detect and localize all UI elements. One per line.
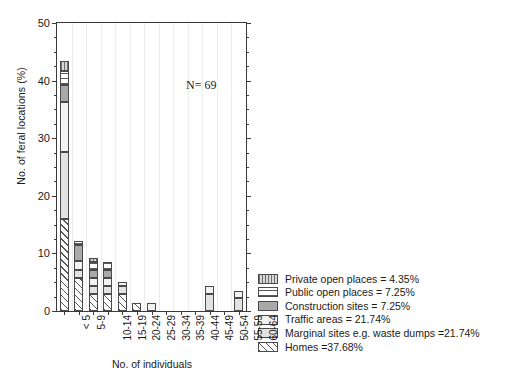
y-tick-minor (54, 167, 57, 168)
x-tick-label: 30-34 (180, 315, 191, 341)
bar-segment (60, 71, 69, 84)
x-tick-label: 45-49 (224, 315, 235, 341)
y-tick-minor-right (246, 297, 249, 298)
sample-size-annotation: N= 69 (186, 78, 216, 93)
x-tick (64, 311, 65, 315)
x-tick-label: < 5 (81, 315, 92, 329)
legend-label: Homes =37.68% (285, 342, 363, 353)
gridline-vertical (130, 23, 131, 311)
y-tick-major-right (246, 81, 251, 82)
legend-swatch-homes (258, 342, 278, 352)
y-tick-minor (54, 239, 57, 240)
bar-segment (89, 286, 98, 294)
y-tick-minor-right (246, 52, 249, 53)
bar--5 (60, 61, 69, 311)
y-tick-label: 20 (26, 190, 50, 202)
bar-segment (205, 294, 214, 311)
x-tick-label: 15-19 (136, 315, 147, 341)
bar-segment (60, 219, 69, 311)
x-tick-label: 40-44 (209, 315, 220, 341)
y-tick-major-right (246, 311, 251, 312)
y-tick-minor-right (246, 124, 249, 125)
bar-segment (89, 258, 98, 262)
x-tick-label: 35-39 (195, 315, 206, 341)
x-tick (79, 311, 80, 315)
y-tick-minor-right (246, 239, 249, 240)
legend-item: Marginal sites e.g. waste dumps =21.74% (258, 326, 516, 340)
bar-segment (74, 241, 83, 245)
y-tick-minor-right (246, 282, 249, 283)
bar-15-19 (103, 262, 112, 311)
gridline-vertical (86, 23, 87, 311)
bar-segment (118, 286, 127, 294)
y-tick-minor-right (246, 95, 249, 96)
x-tick-label: 5-9 (96, 315, 107, 329)
bar-segment (74, 245, 83, 262)
bar-segment (118, 282, 127, 286)
y-tick-major (52, 23, 57, 24)
x-tick-label: 20-24 (151, 315, 162, 341)
y-tick-minor-right (246, 66, 249, 67)
y-tick-minor (54, 282, 57, 283)
bar-segment (89, 294, 98, 311)
bar-segment (74, 261, 83, 269)
bar-segment (234, 291, 243, 298)
x-tick (93, 311, 94, 315)
bar-segment (74, 278, 83, 311)
y-tick-minor (54, 95, 57, 96)
bar-segment (132, 303, 141, 311)
gridline-vertical (115, 23, 116, 311)
legend-item: Homes =37.68% (258, 340, 516, 354)
bar-segment (103, 286, 112, 294)
y-tick-minor (54, 181, 57, 182)
bar-segment (74, 270, 83, 278)
legend-label: Traffic areas = 21.74% (285, 314, 390, 325)
legend-item: Traffic areas = 21.74% (258, 313, 516, 327)
y-tick-minor (54, 124, 57, 125)
plot-area: 01020304050 (56, 22, 247, 312)
gridline-vertical (72, 23, 73, 311)
y-tick-minor-right (246, 210, 249, 211)
y-tick-minor-right (246, 225, 249, 226)
y-tick-label: 40 (26, 75, 50, 87)
bar-segment (103, 262, 112, 270)
bar-segment (118, 294, 127, 311)
bar-segment (205, 286, 214, 294)
bar-segment (60, 85, 69, 102)
bar-60-64 (234, 291, 243, 311)
y-tick-label: 30 (26, 132, 50, 144)
y-tick-major-right (246, 196, 251, 197)
y-tick-minor (54, 153, 57, 154)
bar-segment (60, 152, 69, 219)
y-tick-minor (54, 225, 57, 226)
x-tick-label: 50-54 (238, 315, 249, 341)
x-tick-label: 60-64 (267, 315, 278, 341)
gridline-vertical (231, 23, 232, 311)
y-tick-minor-right (246, 109, 249, 110)
legend-swatch-construction (258, 301, 278, 311)
legend-item: Private open places = 4.35% (258, 272, 516, 286)
bar-segment (103, 294, 112, 311)
gridline-vertical (144, 23, 145, 311)
y-tick-label: 10 (26, 247, 50, 259)
bar-25-29 (132, 303, 141, 311)
y-tick-major-right (246, 23, 251, 24)
y-tick-major-right (246, 253, 251, 254)
gridline-vertical (202, 23, 203, 311)
bar-segment (60, 61, 69, 71)
bar-segment (89, 262, 98, 270)
bar-segment (103, 278, 112, 286)
gridline-vertical (217, 23, 218, 311)
plot-inner: 01020304050 (57, 23, 246, 311)
y-tick-minor-right (246, 37, 249, 38)
y-tick-label: 50 (26, 17, 50, 29)
chart-legend: Private open places = 4.35%Public open p… (258, 272, 516, 354)
legend-label: Construction sites = 7.25% (285, 301, 410, 312)
y-tick-minor (54, 66, 57, 67)
bar-segment (60, 102, 69, 152)
y-tick-minor-right (246, 167, 249, 168)
chart-figure: No. of feral locations (%) No. of indivi… (0, 0, 519, 381)
x-axis-title: No. of individuals (56, 358, 248, 370)
y-tick-major (52, 253, 57, 254)
y-tick-minor (54, 37, 57, 38)
